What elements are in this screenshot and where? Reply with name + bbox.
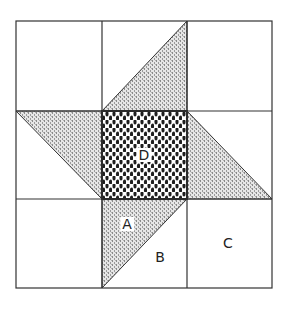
triangle-left <box>16 111 102 199</box>
label-a: A <box>120 217 134 231</box>
label-d: D <box>137 148 152 162</box>
triangle-a <box>102 199 187 288</box>
label-c: C <box>221 236 235 250</box>
triangle-top <box>102 21 187 111</box>
label-b: B <box>153 250 167 264</box>
triangle-right <box>187 111 272 199</box>
